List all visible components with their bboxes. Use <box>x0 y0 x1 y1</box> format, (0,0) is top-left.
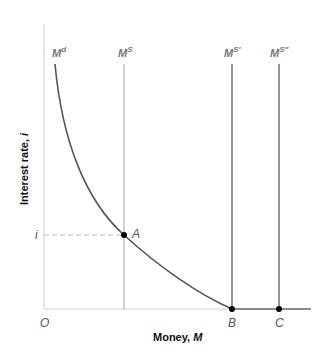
point-b-label: B <box>228 316 236 330</box>
point-c-marker <box>276 306 282 312</box>
point-c-label: C <box>275 316 284 330</box>
md-curve <box>55 64 232 309</box>
md-label: Md <box>52 45 66 59</box>
point-a-label: A <box>132 227 140 241</box>
x-axis-title: Money, M <box>153 331 202 343</box>
origin-label: O <box>40 316 49 330</box>
point-b-marker <box>229 306 235 312</box>
ms-prime-label: MS′ <box>224 45 240 59</box>
i-tick-label: i <box>35 228 38 242</box>
y-axis-title: Interest rate, i <box>18 133 30 205</box>
ms-label: MS <box>118 45 133 59</box>
point-a-marker <box>121 232 127 238</box>
ms-double-prime-label: MS″ <box>270 45 288 59</box>
